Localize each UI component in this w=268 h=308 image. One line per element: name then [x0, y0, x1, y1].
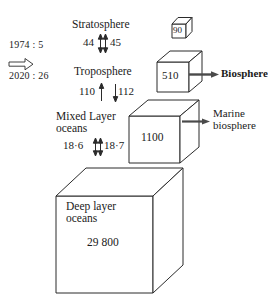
flux-18-7-label: 18·7: [104, 140, 124, 152]
flux-arrow-mixed-deep: [93, 138, 102, 156]
marine-biosphere-cube-value: 1100: [141, 131, 164, 143]
troposphere-label: Troposphere: [74, 65, 132, 77]
emission-2020-label: 2020 : 26: [9, 71, 49, 82]
emission-1974-label: 1974 : 5: [9, 40, 43, 51]
marine-biosphere-side-label-line2: biosphere: [213, 120, 256, 132]
flux-arrow-up-110: [99, 83, 103, 101]
mixed-layer-label-line2: oceans: [56, 122, 87, 134]
deep-ocean-cube-shape: [56, 168, 183, 293]
emission-arrow-icon: [9, 59, 33, 70]
stratosphere-cube-value: 90: [173, 26, 182, 36]
flux-arrow-strat-trop: [98, 34, 107, 53]
flux-112-label: 112: [118, 86, 134, 98]
carbon-cycle-diagram: 1974 : 5 2020 : 26 Stratosphere Troposph…: [0, 0, 268, 308]
deep-ocean-cube-value: 29 800: [87, 236, 119, 248]
mixed-layer-label-line1: Mixed Layer: [56, 110, 116, 122]
deep-layer-label-line1: Deep layer: [66, 200, 116, 212]
biosphere-side-label: Biosphere: [221, 68, 268, 80]
flux-18-6-label: 18·6: [63, 140, 83, 152]
marine-biosphere-cube-shape: [129, 100, 199, 163]
flux-44-label: 44: [83, 37, 94, 49]
flux-110-label: 110: [79, 86, 95, 98]
flux-45-label: 45: [110, 37, 121, 49]
biosphere-cube-value: 510: [162, 70, 179, 82]
stratosphere-label: Stratosphere: [72, 18, 129, 30]
deep-layer-label-line2: oceans: [66, 212, 97, 224]
